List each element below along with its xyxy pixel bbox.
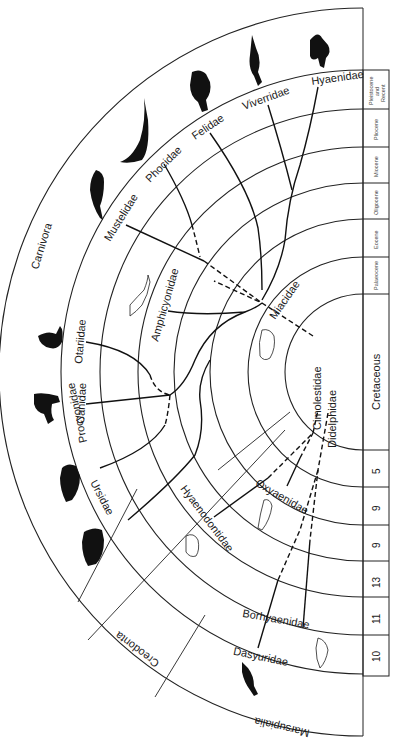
miacid-sketch-icon bbox=[259, 330, 274, 360]
family-borhyaenidae: Borhyaenidae bbox=[242, 607, 311, 631]
family-didelphidae: Didelphidae bbox=[326, 390, 338, 448]
count-5: 11 bbox=[371, 613, 382, 624]
lineage-lines bbox=[86, 87, 328, 648]
family-cimolestidae: Cimolestidae bbox=[311, 366, 323, 430]
oxyaenid-sketch-icon bbox=[258, 500, 272, 530]
cat-silhouette-icon bbox=[190, 70, 211, 112]
hyena-silhouette-icon bbox=[310, 34, 330, 68]
order-label-creodonta: Creodonta bbox=[112, 629, 161, 670]
family-phocidae: Phocidae bbox=[143, 143, 184, 184]
family-hyaenidae: Hyaenidae bbox=[311, 68, 365, 87]
timeline-strip: Pleistocene and Recent Pliocene Miocene … bbox=[363, 8, 389, 736]
order-label-marsupialia: Marsupialia bbox=[252, 715, 310, 740]
dog-silhouette-icon bbox=[34, 393, 60, 424]
count-3: 9 bbox=[371, 542, 382, 548]
family-mustelidae: Mustelidae bbox=[102, 192, 140, 243]
count-6: 10 bbox=[371, 650, 382, 662]
family-otariidae: Otariidae bbox=[72, 319, 88, 365]
family-dasyuridae: Dasyuridae bbox=[232, 645, 289, 668]
epoch-cretaceous: Cretaceous bbox=[370, 353, 382, 410]
family-labels: Hyaenidae Viverridae Felidae Phocidae Mu… bbox=[65, 68, 365, 668]
phylogeny-fan-diagram: Pleistocene and Recent Pliocene Miocene … bbox=[0, 0, 400, 744]
order-label-carnivora: Carnivora bbox=[28, 221, 54, 271]
sea-lion-silhouette-icon bbox=[38, 326, 63, 348]
count-1: 5 bbox=[371, 468, 382, 474]
family-felidae: Felidae bbox=[189, 112, 226, 142]
family-viverridae: Viverridae bbox=[241, 84, 291, 112]
seal-silhouette-icon bbox=[120, 98, 148, 163]
epoch-oligocene: Oligocene bbox=[373, 190, 379, 215]
epoch-miocene: Miocene bbox=[373, 156, 379, 177]
count-2: 9 bbox=[371, 505, 382, 511]
family-amphicyonidae: Amphicyonidae bbox=[148, 267, 180, 343]
civet-silhouette-icon bbox=[250, 35, 263, 86]
hyaenodont-sketch-icon bbox=[186, 535, 199, 557]
raccoon-silhouette-icon bbox=[60, 464, 80, 502]
thylacine-silhouette-icon bbox=[242, 662, 258, 696]
family-ursidae: Ursidae bbox=[88, 478, 116, 517]
family-miacidae: Miacidae bbox=[267, 278, 302, 321]
bear-silhouette-icon bbox=[82, 528, 104, 566]
epoch-pliocene: Pliocene bbox=[373, 119, 379, 140]
epoch-eocene: Eocene bbox=[373, 230, 379, 249]
epoch-palaeocene: Palaeocene bbox=[373, 261, 379, 290]
epoch-recent: Recent bbox=[380, 84, 386, 102]
borhyaenid-sketch-icon bbox=[316, 638, 328, 668]
weasel-silhouette-icon bbox=[90, 170, 104, 220]
count-4: 13 bbox=[371, 576, 382, 588]
